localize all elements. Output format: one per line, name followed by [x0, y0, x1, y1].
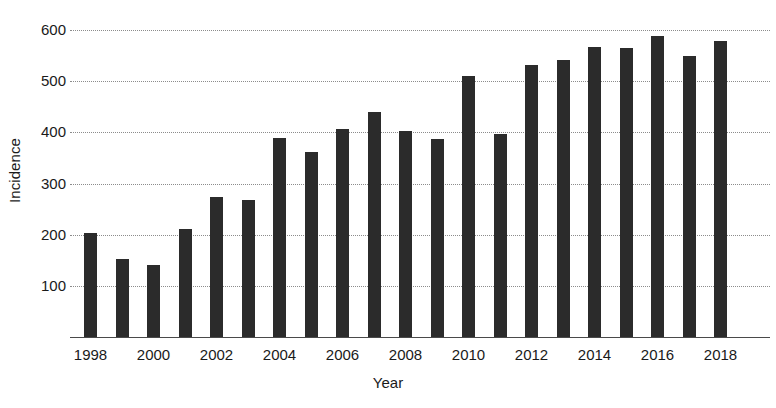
x-axis-tick-label: 2012 — [502, 346, 562, 363]
x-axis-tick-label: 2000 — [124, 346, 184, 363]
bar — [683, 56, 696, 337]
bar — [305, 152, 318, 337]
gridline — [70, 235, 770, 236]
bar — [431, 139, 444, 337]
bar — [116, 259, 129, 337]
y-axis-tick-label: 400 — [6, 123, 66, 140]
bar — [651, 36, 664, 337]
bar — [557, 60, 570, 337]
x-axis-tick-label: 2016 — [628, 346, 688, 363]
x-axis-tick-label: 2006 — [313, 346, 373, 363]
bar — [368, 112, 381, 337]
bar-chart: Incidence 100200300400500600199820002002… — [0, 0, 776, 408]
bar — [399, 131, 412, 337]
y-axis-tick-label: 100 — [6, 277, 66, 294]
y-axis-tick-label: 200 — [6, 226, 66, 243]
x-axis-tick-label: 1998 — [61, 346, 121, 363]
plot-area: 1002003004005006001998200020022004200620… — [70, 20, 770, 337]
bar — [336, 129, 349, 337]
x-axis-tick-label: 2002 — [187, 346, 247, 363]
bar — [494, 134, 507, 337]
bar — [210, 197, 223, 337]
x-axis-tick-label: 2010 — [439, 346, 499, 363]
y-axis-tick-label: 600 — [6, 21, 66, 38]
bar — [242, 200, 255, 337]
y-axis-tick-label: 300 — [6, 175, 66, 192]
bar — [525, 65, 538, 337]
gridline — [70, 132, 770, 133]
x-axis-line — [70, 337, 770, 338]
x-axis-tick-label: 2004 — [250, 346, 310, 363]
bar — [147, 265, 160, 337]
gridline — [70, 81, 770, 82]
y-axis-tick-label: 500 — [6, 72, 66, 89]
bar — [179, 229, 192, 337]
bar — [714, 41, 727, 337]
x-axis-title: Year — [0, 374, 776, 391]
gridline — [70, 30, 770, 31]
x-axis-tick-label: 2014 — [565, 346, 625, 363]
x-axis-tick-label: 2008 — [376, 346, 436, 363]
bar — [84, 233, 97, 337]
y-axis-title-text: Incidence — [7, 137, 24, 202]
bar — [588, 47, 601, 337]
x-axis-tick-label: 2018 — [691, 346, 751, 363]
gridline — [70, 286, 770, 287]
bar — [620, 48, 633, 337]
gridline — [70, 184, 770, 185]
bar — [273, 138, 286, 337]
bar — [462, 76, 475, 337]
